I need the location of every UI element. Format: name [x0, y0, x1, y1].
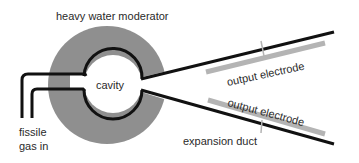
label-duct: expansion duct: [183, 135, 257, 147]
label-gas-in-2: gas in: [19, 140, 48, 152]
label-moderator: heavy water moderator: [56, 10, 169, 22]
reactor-diagram: [0, 0, 359, 163]
duct-wall-upper: [141, 32, 334, 79]
label-gas-in-1: fissile: [19, 126, 47, 138]
electrode-lead-bottom: [261, 120, 262, 133]
label-cavity: cavity: [96, 79, 124, 91]
